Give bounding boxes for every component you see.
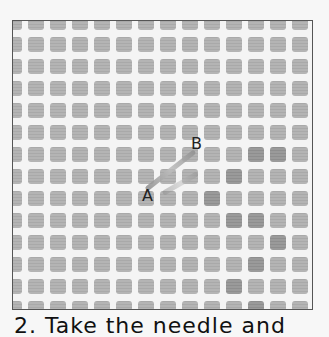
mesh-hole: [72, 235, 88, 250]
mesh-hole: [50, 81, 66, 96]
mesh-hole: [12, 301, 22, 310]
mesh-hole: [138, 125, 154, 140]
mesh-hole: [226, 103, 242, 118]
mesh-hole: [28, 235, 44, 250]
mesh-hole: [248, 37, 264, 52]
mesh-hole: [138, 20, 154, 30]
mesh-hole: [116, 191, 132, 206]
mesh-hole: [292, 59, 308, 74]
mesh-hole: [292, 235, 308, 250]
mesh-hole: [160, 301, 176, 310]
mesh-hole: [204, 147, 220, 162]
mesh-hole: [116, 213, 132, 228]
mesh-hole: [226, 20, 242, 30]
mesh-hole: [50, 147, 66, 162]
mesh-hole: [248, 257, 264, 272]
mesh-hole: [270, 103, 286, 118]
mesh-hole: [12, 147, 22, 162]
mesh-hole: [138, 257, 154, 272]
mesh-hole: [270, 191, 286, 206]
mesh-hole: [94, 37, 110, 52]
mesh-hole: [50, 103, 66, 118]
mesh-hole: [204, 103, 220, 118]
mesh-hole: [50, 169, 66, 184]
mesh-hole: [50, 125, 66, 140]
mesh-hole: [182, 235, 198, 250]
mesh-hole: [94, 191, 110, 206]
mesh-hole: [292, 103, 308, 118]
mesh-hole: [226, 279, 242, 294]
mesh-hole: [270, 81, 286, 96]
mesh-hole: [226, 59, 242, 74]
mesh-hole: [204, 59, 220, 74]
mesh-hole: [160, 20, 176, 30]
mesh-hole: [248, 125, 264, 140]
mesh-hole: [182, 213, 198, 228]
mesh-hole: [270, 169, 286, 184]
mesh-hole: [204, 257, 220, 272]
mesh-hole: [204, 235, 220, 250]
mesh-hole: [138, 59, 154, 74]
mesh-hole: [28, 125, 44, 140]
mesh-hole: [116, 81, 132, 96]
mesh-hole: [12, 257, 22, 272]
mesh-hole: [292, 257, 308, 272]
mesh-hole: [292, 191, 308, 206]
mesh-hole: [72, 37, 88, 52]
mesh-hole: [138, 103, 154, 118]
mesh-hole: [248, 235, 264, 250]
mesh-hole: [12, 125, 22, 140]
mesh-hole: [226, 37, 242, 52]
mesh-hole: [116, 257, 132, 272]
mesh-hole: [72, 81, 88, 96]
mesh-hole: [270, 301, 286, 310]
mesh-hole: [12, 103, 22, 118]
mesh-hole: [50, 257, 66, 272]
mesh-hole: [248, 20, 264, 30]
mesh-hole: [182, 257, 198, 272]
mesh-hole: [248, 191, 264, 206]
mesh-hole: [50, 235, 66, 250]
mesh-hole: [160, 235, 176, 250]
mesh-hole: [226, 169, 242, 184]
mesh-hole: [28, 191, 44, 206]
mesh-hole: [116, 147, 132, 162]
mesh-hole: [94, 213, 110, 228]
mesh-hole: [138, 147, 154, 162]
mesh-hole: [292, 20, 308, 30]
mesh-hole: [138, 81, 154, 96]
mesh-hole: [72, 191, 88, 206]
mesh-hole: [248, 59, 264, 74]
mesh-hole: [28, 59, 44, 74]
mesh-hole: [292, 81, 308, 96]
mesh-hole: [182, 20, 198, 30]
mesh-hole: [28, 103, 44, 118]
mesh-hole: [116, 103, 132, 118]
mesh-hole: [50, 191, 66, 206]
mesh-hole: [116, 279, 132, 294]
mesh-hole: [12, 20, 22, 30]
mesh-hole: [94, 81, 110, 96]
mesh-hole: [72, 147, 88, 162]
mesh-hole: [182, 59, 198, 74]
mesh-hole: [160, 81, 176, 96]
mesh-hole: [248, 81, 264, 96]
mesh-hole: [28, 301, 44, 310]
mesh-hole: [270, 213, 286, 228]
mesh-hole: [138, 279, 154, 294]
mesh-hole: [292, 125, 308, 140]
mesh-hole: [292, 147, 308, 162]
mesh-hole: [12, 213, 22, 228]
mesh-hole: [116, 37, 132, 52]
mesh-hole: [12, 59, 22, 74]
label-a: A: [142, 188, 153, 204]
mesh-hole: [226, 213, 242, 228]
mesh-hole: [72, 169, 88, 184]
mesh-hole: [116, 301, 132, 310]
mesh-hole: [28, 213, 44, 228]
mesh-hole: [72, 257, 88, 272]
mesh-hole: [94, 301, 110, 310]
mesh-hole: [72, 103, 88, 118]
mesh-hole: [116, 59, 132, 74]
mesh-hole: [226, 257, 242, 272]
